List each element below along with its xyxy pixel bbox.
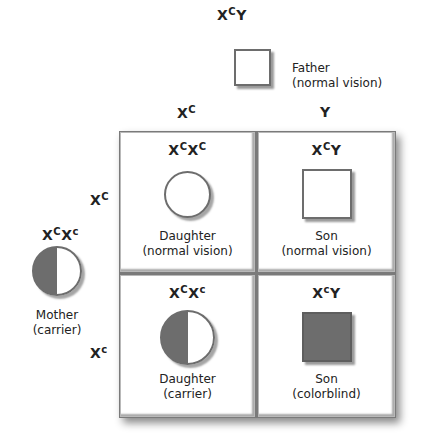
- cell-label: Son (colorblind): [259, 372, 394, 402]
- open-circle-icon: [164, 171, 211, 218]
- cell-genotype: XcY: [259, 284, 394, 301]
- cell-genotype: XCXc: [121, 284, 254, 301]
- father-genotype: XCY: [217, 6, 247, 23]
- row-header-2: Xc: [90, 344, 108, 361]
- row-header-1: XC: [90, 191, 109, 208]
- cell-daughter-carrier: XCXc Daughter (carrier): [120, 275, 255, 417]
- open-square-icon: [302, 169, 352, 219]
- cell-genotype: XCY: [259, 141, 394, 158]
- filled-square-icon: [302, 312, 352, 362]
- mother-half-circle-icon: [32, 246, 82, 296]
- cell-label: Daughter (normal vision): [121, 229, 254, 259]
- father-square-icon: [234, 49, 271, 86]
- mother-genotype: XCXc: [42, 226, 79, 243]
- cell-son-normal: XCY Son (normal vision): [258, 132, 395, 272]
- mother-label: Mother (carrier): [25, 308, 89, 338]
- cell-daughter-normal: XCXC Daughter (normal vision): [120, 132, 255, 272]
- half-filled-circle-icon: [160, 310, 215, 365]
- cell-label: Son (normal vision): [259, 229, 394, 259]
- punnett-square: XCXC Daughter (normal vision) XCY Son (n…: [119, 131, 396, 418]
- father-label: Father (normal vision): [292, 61, 382, 91]
- cell-genotype: XCXC: [121, 141, 254, 158]
- cell-label: Daughter (carrier): [121, 372, 254, 402]
- cell-son-colorblind: XcY Son (colorblind): [258, 275, 395, 417]
- column-header-1: XC: [177, 104, 196, 121]
- column-header-2: Y: [320, 104, 331, 120]
